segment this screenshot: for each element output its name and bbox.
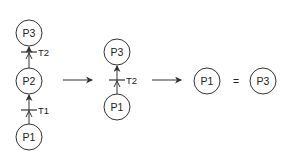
petri-net-reduction-diagram: T1 T2 P3 P2 P1 T2 P3 P1 P1 = P3 bbox=[0, 0, 289, 159]
transition-t1-label: T1 bbox=[38, 105, 49, 116]
place-p3-label: P3 bbox=[111, 46, 124, 58]
place-p1-label: P1 bbox=[201, 75, 214, 87]
place-p1-label: P1 bbox=[23, 131, 36, 143]
place-p3-label: P3 bbox=[23, 27, 36, 39]
stage1: T1 T2 P3 P2 P1 bbox=[16, 20, 49, 150]
place-p3-label: P3 bbox=[257, 75, 270, 87]
stage2: T2 P3 P1 bbox=[104, 39, 137, 120]
transition-t2-label: T2 bbox=[38, 47, 49, 58]
equals-sign: = bbox=[233, 75, 239, 87]
place-p2-label: P2 bbox=[23, 75, 36, 87]
transition-t2-label: T2 bbox=[126, 75, 137, 86]
stage3: P1 = P3 bbox=[194, 68, 276, 94]
place-p1-label: P1 bbox=[111, 101, 124, 113]
